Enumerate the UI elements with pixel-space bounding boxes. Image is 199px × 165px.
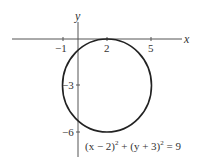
equation-part3: = 9	[164, 140, 182, 152]
x-axis-label: x	[183, 32, 190, 46]
equation-part1: (x − 2)	[85, 140, 115, 153]
circle-graph: x y −1 2 5 −3 −6 (x − 2)2 + (y + 3)2 = 9	[0, 0, 199, 165]
y-tick-label-neg3: −3	[62, 79, 74, 91]
equation-part2: + (y + 3)	[119, 140, 161, 153]
x-tick-label-2: 2	[104, 42, 110, 54]
y-axis-label: y	[74, 9, 81, 23]
x-tick-label-neg1: −1	[55, 42, 67, 54]
equation-label: (x − 2)2 + (y + 3)2 = 9	[85, 139, 181, 153]
y-tick-label-neg6: −6	[62, 126, 74, 138]
x-tick-label-5: 5	[148, 42, 154, 54]
